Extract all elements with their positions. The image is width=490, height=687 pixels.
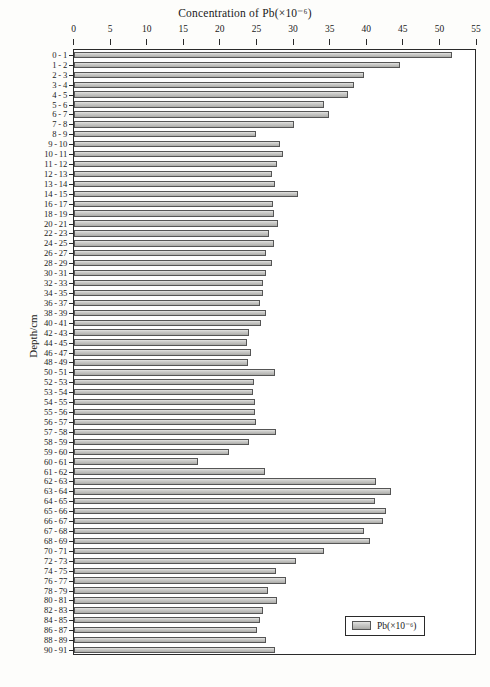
bar xyxy=(74,280,263,286)
bar xyxy=(74,240,274,246)
y-tick-label: 76 - 77 xyxy=(44,576,67,586)
y-tick-label: 54 - 55 xyxy=(44,397,67,407)
figure-root: Concentration of Pb(×10⁻⁶) 0510152025303… xyxy=(0,0,490,687)
y-tick-label: 40 - 41 xyxy=(44,318,67,328)
y-tick xyxy=(69,243,73,244)
x-axis-ticks: 0510152025303540455055 xyxy=(0,0,490,50)
x-tick-label-30: 30 xyxy=(288,24,298,34)
y-tick xyxy=(69,164,73,165)
y-tick xyxy=(69,472,73,473)
y-tick-label: 8 - 9 xyxy=(52,129,67,139)
bar xyxy=(74,637,266,643)
y-tick-label: 48 - 49 xyxy=(44,357,67,367)
y-tick-label: 66 - 67 xyxy=(44,516,67,526)
y-tick-label: 16 - 17 xyxy=(44,199,67,209)
y-tick-label: 36 - 37 xyxy=(44,298,67,308)
y-tick xyxy=(69,85,73,86)
y-tick xyxy=(69,184,73,185)
bar xyxy=(74,141,280,147)
bar xyxy=(74,518,383,524)
y-tick-label: 72 - 73 xyxy=(44,556,67,566)
x-tick-label-20: 20 xyxy=(215,24,225,34)
y-tick xyxy=(69,293,73,294)
bar xyxy=(74,478,376,484)
x-tick-10 xyxy=(146,39,147,45)
bar xyxy=(74,607,263,613)
y-tick-label: 34 - 35 xyxy=(44,288,67,298)
y-tick xyxy=(69,204,73,205)
y-tick-label: 38 - 39 xyxy=(44,308,67,318)
y-tick xyxy=(69,134,73,135)
y-tick xyxy=(69,154,73,155)
y-tick-label: 68 - 69 xyxy=(44,536,67,546)
y-tick xyxy=(69,581,73,582)
y-tick xyxy=(69,224,73,225)
x-tick-15 xyxy=(183,39,184,45)
y-tick-label: 14 - 15 xyxy=(44,189,67,199)
y-tick xyxy=(69,333,73,334)
y-tick-label: 9 - 10 xyxy=(48,139,67,149)
bar xyxy=(74,250,266,256)
x-tick-label-25: 25 xyxy=(252,24,262,34)
y-tick xyxy=(69,481,73,482)
bar xyxy=(74,627,257,633)
bar xyxy=(74,131,256,137)
x-tick-20 xyxy=(219,39,220,45)
bar xyxy=(74,191,298,197)
x-tick-label-15: 15 xyxy=(179,24,189,34)
y-tick-label: 10 - 11 xyxy=(44,149,67,159)
bar xyxy=(74,439,249,445)
y-tick-label: 58 - 59 xyxy=(44,437,67,447)
y-tick-label: 60 - 61 xyxy=(44,457,67,467)
bar xyxy=(74,161,277,167)
x-tick-label-5: 5 xyxy=(108,24,113,34)
y-tick-label: 5 - 6 xyxy=(52,100,67,110)
x-tick-40 xyxy=(366,39,367,45)
y-tick xyxy=(69,561,73,562)
bar xyxy=(74,558,296,564)
bar xyxy=(74,587,268,593)
y-tick xyxy=(69,214,73,215)
y-tick xyxy=(69,372,73,373)
bar xyxy=(74,201,273,207)
bar xyxy=(74,419,256,425)
y-tick-label: 62 - 63 xyxy=(44,476,67,486)
y-tick-label: 20 - 21 xyxy=(44,219,67,229)
bar xyxy=(74,369,275,375)
x-tick-35 xyxy=(329,39,330,45)
y-tick xyxy=(69,392,73,393)
y-tick-label: 52 - 53 xyxy=(44,377,67,387)
bar xyxy=(74,429,276,435)
bar xyxy=(74,597,277,603)
y-tick xyxy=(69,432,73,433)
y-tick xyxy=(69,620,73,621)
y-tick xyxy=(69,412,73,413)
y-tick-label: 24 - 25 xyxy=(44,238,67,248)
y-tick xyxy=(69,442,73,443)
bar xyxy=(74,458,198,464)
bar xyxy=(74,111,329,117)
y-tick xyxy=(69,303,73,304)
y-tick xyxy=(69,124,73,125)
bar xyxy=(74,349,251,355)
bar xyxy=(74,82,354,88)
y-tick xyxy=(69,55,73,56)
bar xyxy=(74,52,452,58)
legend-label-pb: Pb(×10⁻⁶) xyxy=(377,620,417,631)
y-tick xyxy=(69,273,73,274)
y-tick xyxy=(69,144,73,145)
y-tick-label: 28 - 29 xyxy=(44,258,67,268)
y-tick-label: 57 - 58 xyxy=(44,427,67,437)
y-tick xyxy=(69,462,73,463)
x-tick-label-50: 50 xyxy=(435,24,445,34)
bar xyxy=(74,171,272,177)
y-tick-label: 80 - 81 xyxy=(44,595,67,605)
bar xyxy=(74,568,276,574)
y-tick xyxy=(69,610,73,611)
bar xyxy=(74,290,263,296)
y-tick xyxy=(69,233,73,234)
bar xyxy=(74,230,269,236)
y-tick xyxy=(69,253,73,254)
y-tick-label: 90 - 91 xyxy=(44,645,67,655)
x-tick-5 xyxy=(110,39,111,45)
